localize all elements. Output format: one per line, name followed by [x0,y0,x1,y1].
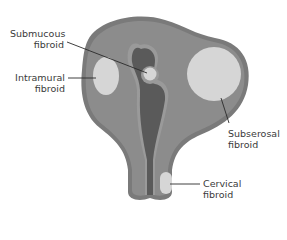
cervical-fibroid [160,172,172,194]
intramural-label-line2: fibroid [10,83,65,94]
submucous-label: Submucous fibroid [10,28,64,50]
submucous-fibroid-core [144,68,157,81]
cervical-label: Cervical fibroid [203,178,241,200]
subserosal-label: Subserosal fibroid [228,128,280,150]
submucous-label-line1: Submucous [10,28,64,39]
subserosal-label-line2: fibroid [228,139,280,150]
cervical-label-line2: fibroid [203,189,241,200]
intramural-label-line1: Intramural [10,72,65,83]
subserosal-label-line1: Subserosal [228,128,280,139]
subserosal-fibroid [187,47,241,101]
cervical-label-line1: Cervical [203,178,241,189]
intramural-fibroid [93,57,119,95]
intramural-label: Intramural fibroid [10,72,65,94]
submucous-label-line2: fibroid [10,39,64,50]
